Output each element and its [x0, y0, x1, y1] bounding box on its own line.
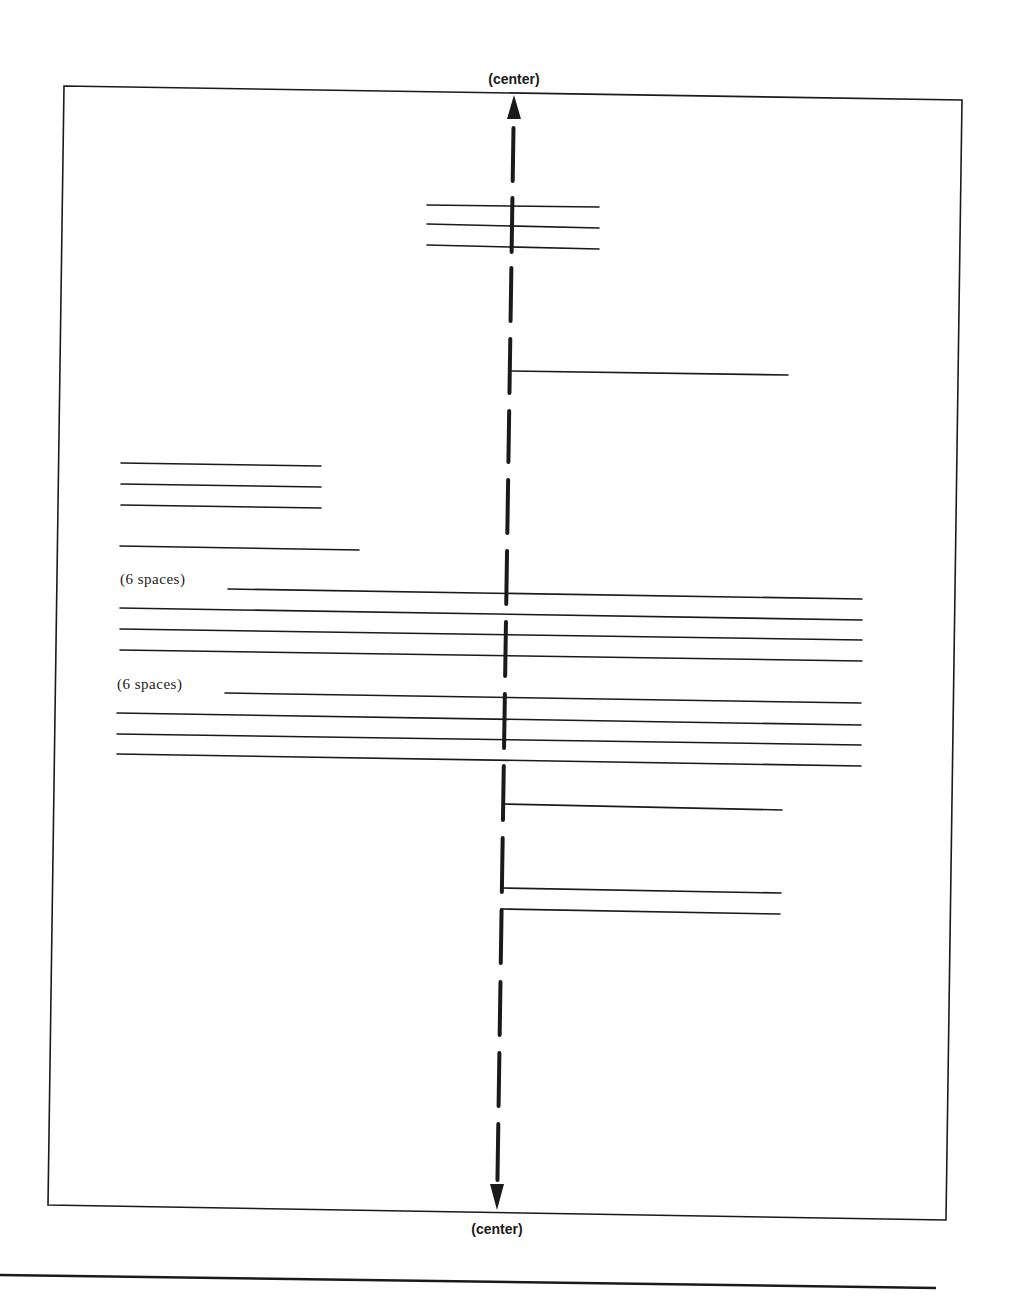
axis-dash — [509, 339, 510, 393]
left-line — [120, 546, 359, 550]
footer-rule — [0, 1275, 936, 1288]
axis-dash — [512, 198, 513, 252]
paragraph-line — [120, 650, 862, 661]
axis-dash — [497, 1124, 498, 1180]
left-line — [121, 463, 321, 466]
center-start-line — [511, 371, 788, 375]
center-start-line — [502, 804, 782, 810]
center-start-line — [502, 888, 781, 893]
paragraph-line — [120, 608, 862, 620]
arrow-down-icon — [490, 1184, 504, 1210]
indent-label-2: (6 spaces) — [117, 676, 182, 693]
axis-dash — [508, 411, 509, 462]
axis-dash — [503, 766, 504, 820]
left-line — [121, 505, 321, 508]
top-center-label: (center) — [488, 71, 539, 87]
paragraph-line — [117, 754, 861, 766]
paragraph-line — [117, 713, 861, 725]
indented-paragraphs: (6 spaces) (6 spaces) — [117, 571, 862, 766]
axis-dash — [513, 128, 514, 181]
paragraph-line — [225, 693, 861, 703]
axis-dash — [501, 910, 502, 963]
axis-dash — [499, 1053, 500, 1106]
axis-dash — [504, 694, 505, 748]
paragraph-line — [120, 629, 862, 640]
center-axis — [490, 95, 521, 1210]
paragraph-line — [117, 734, 861, 745]
page-layout-diagram: (center) (6 spaces) (6 spaces) (center) — [0, 0, 1009, 1314]
left-aligned-lines — [120, 463, 359, 550]
axis-dash — [502, 838, 503, 892]
axis-dash — [507, 480, 508, 533]
paragraph-line — [228, 589, 862, 599]
bottom-center-label: (center) — [471, 1221, 522, 1237]
axis-dash — [500, 982, 501, 1035]
indent-label-1: (6 spaces) — [120, 571, 185, 588]
axis-dash — [506, 551, 507, 604]
axis-dash — [511, 268, 512, 321]
center-start-lines — [502, 371, 788, 914]
left-line — [121, 484, 321, 487]
axis-dash — [505, 622, 506, 676]
center-start-line — [502, 909, 780, 914]
